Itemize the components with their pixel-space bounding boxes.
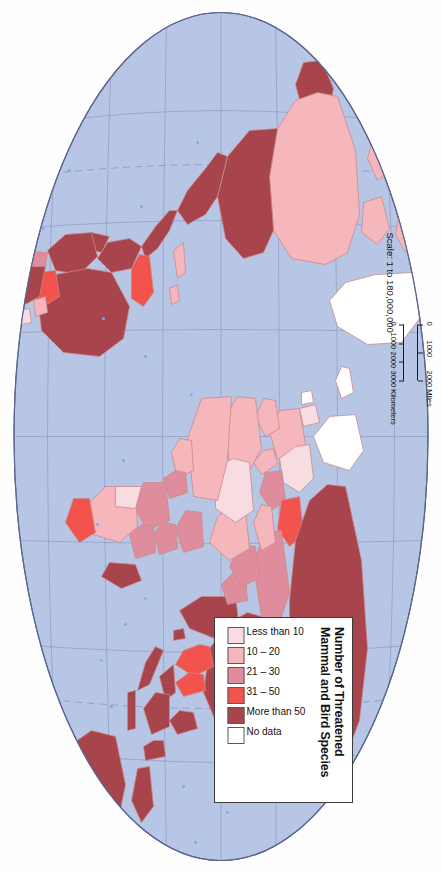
legend-label: 31 – 50 — [246, 687, 308, 697]
legend-item-less-than-10: Less than 10 — [227, 627, 308, 644]
scale-tick-miles-1: 1000 — [426, 340, 434, 357]
scale-unit-miles: 2000 Miles — [426, 370, 434, 406]
map-scale: Scale: 1 to 180,000,000 0 1000 2000 Mile… — [378, 232, 434, 447]
legend-swatch — [227, 727, 244, 744]
legend-item-21-30: 21 – 30 — [227, 667, 308, 684]
legend-title-line2: Mammal and Bird Species — [317, 627, 331, 777]
country-uruguay — [19, 308, 31, 324]
scale-tick-km-0: 0 — [390, 321, 398, 325]
legend-label: No data — [246, 727, 308, 737]
scale-unit-kilometers: 3000 Kilometers — [390, 370, 398, 424]
legend-swatch — [227, 707, 244, 724]
legend-title: Number of Threatened Mammal and Bird Spe… — [317, 627, 345, 793]
country-new-zealand — [33, 846, 71, 864]
country-australia — [53, 730, 125, 840]
legend-swatch — [227, 687, 244, 704]
country-tasmania — [39, 806, 51, 822]
legend-swatch — [227, 627, 244, 644]
map-legend: Number of Threatened Mammal and Bird Spe… — [214, 617, 353, 803]
legend-label: 10 – 20 — [246, 647, 308, 657]
legend-swatch — [227, 647, 244, 664]
legend-swatch — [227, 667, 244, 684]
legend-label: 21 – 30 — [246, 667, 308, 677]
legend-items: Less than 10 10 – 20 21 – 30 31 – 50 Mor — [227, 627, 308, 793]
map-page: Number of Threatened Mammal and Bird Spe… — [0, 0, 441, 873]
scale-tick-miles-0: 0 — [426, 321, 434, 325]
legend-item-10-20: 10 – 20 — [227, 647, 308, 664]
legend-label: Less than 10 — [246, 627, 308, 637]
legend-item-no-data: No data — [227, 727, 308, 744]
legend-item-31-50: 31 – 50 — [227, 687, 308, 704]
legend-label: More than 50 — [246, 707, 308, 717]
scale-tick-km-2: 2000 — [390, 351, 398, 368]
island-java — [127, 690, 135, 730]
scale-ratio-text: Scale: 1 to 180,000,000 — [385, 232, 396, 332]
scale-tick-km-1: 1000 — [390, 332, 398, 349]
country-ireland — [301, 390, 313, 404]
legend-title-line1: Number of Threatened — [331, 627, 345, 756]
island-banks — [367, 112, 383, 136]
legend-item-more-than-50: More than 50 — [227, 707, 308, 724]
